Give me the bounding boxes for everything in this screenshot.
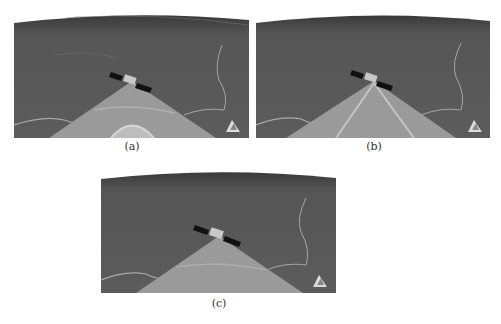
caption-c: (c) [189,297,249,310]
panel-b: (b) [256,15,490,138]
caption-b: (b) [344,140,404,153]
satellite-scene-c [101,172,336,293]
panel-a: (a) [14,15,249,138]
caption-a: (a) [102,140,162,153]
satellite-scene-b [256,15,490,138]
panel-c: (c) [101,172,336,293]
satellite-scene-a [14,15,249,138]
